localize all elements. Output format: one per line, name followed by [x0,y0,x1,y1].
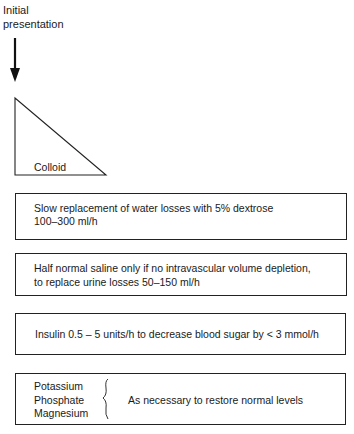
step-3-line-1: Insulin 0.5 – 5 units/h to decrease bloo… [35,328,319,341]
down-arrow-icon [10,38,20,82]
step-1-line-2: 100–300 ml/h [34,215,273,228]
electrolyte-phosphate: Phosphate [34,394,88,408]
step-box-electrolytes: Potassium Phosphate Magnesium As necessa… [15,373,346,425]
electrolyte-magnesium: Magnesium [34,407,88,421]
step-box-insulin: Insulin 0.5 – 5 units/h to decrease bloo… [15,313,346,355]
colloid-label: Colloid [34,160,66,174]
step-box-saline: Half normal saline only if no intravascu… [15,253,347,296]
step-1-line-1: Slow replacement of water losses with 5%… [34,202,273,215]
step-2-line-1: Half normal saline only if no intravascu… [34,261,311,275]
electrolyte-list: Potassium Phosphate Magnesium [34,380,88,421]
step-box-dextrose: Slow replacement of water losses with 5%… [15,193,347,240]
curly-brace-icon [96,374,116,424]
electrolyte-potassium: Potassium [34,380,88,394]
step-2-line-2: to replace urine losses 50–150 ml/h [34,275,311,289]
electrolyte-note: As necessary to restore normal levels [128,394,303,407]
